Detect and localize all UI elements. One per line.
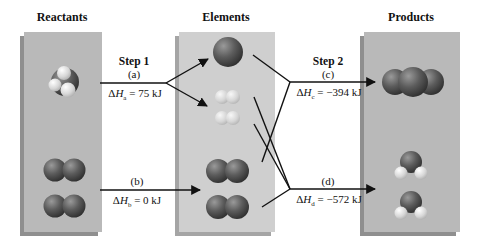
reaction-b-tag: (b) <box>110 175 164 187</box>
arrow-d <box>254 97 375 207</box>
reaction-c-tag: (c) <box>301 68 355 80</box>
delta-h-symbol: ΔH <box>296 86 311 98</box>
reaction-a-tag: (a) <box>107 68 161 80</box>
enthalpy-value: = −572 kJ <box>318 193 362 205</box>
oxygen-molecule <box>44 159 86 182</box>
oxygen-molecule <box>206 159 249 183</box>
delta-h-symbol: ΔH <box>108 87 123 99</box>
hydrogen-molecule <box>215 90 240 104</box>
reaction-a-enthalpy: ΔHa = 75 kJ <box>104 87 166 102</box>
subscript: c <box>311 93 314 101</box>
delta-h-symbol: ΔH <box>113 194 128 206</box>
subscript: a <box>123 94 126 102</box>
delta-h-symbol: ΔH <box>296 193 311 205</box>
carbon-atom <box>213 37 243 67</box>
oxygen-molecule <box>44 195 86 218</box>
enthalpy-value: = 75 kJ <box>129 87 161 99</box>
water-molecule <box>395 151 428 180</box>
enthalpy-value: = −394 kJ <box>317 86 361 98</box>
water-molecule <box>395 191 428 220</box>
hydrogen-molecule <box>215 111 240 125</box>
reaction-c-enthalpy: ΔHc = −394 kJ <box>292 86 366 101</box>
reaction-d-tag: (d) <box>301 175 355 187</box>
oxygen-molecule <box>206 195 249 219</box>
reaction-d-enthalpy: ΔHd = −572 kJ <box>292 193 366 208</box>
subscript: d <box>311 200 315 208</box>
subscript: b <box>128 201 132 209</box>
methane-molecule <box>49 66 80 98</box>
carbon-dioxide-molecule <box>382 67 444 97</box>
enthalpy-value: = 0 kJ <box>134 194 161 206</box>
step2-label: Step 2 <box>301 55 355 67</box>
step1-label: Step 1 <box>107 55 161 67</box>
reaction-b-enthalpy: ΔHb = 0 kJ <box>106 194 168 209</box>
reaction-diagram <box>0 0 487 250</box>
